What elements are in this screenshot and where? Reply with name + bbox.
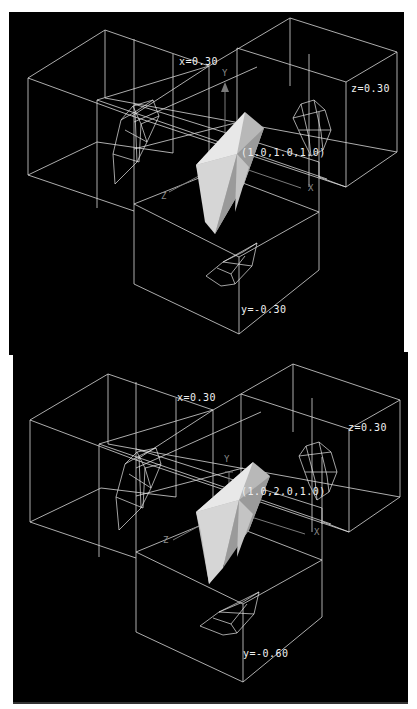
slice-label-z: z=0.30	[351, 84, 390, 94]
slice-box-x	[28, 30, 327, 211]
axis-label-x: X	[314, 528, 319, 537]
mesh-projection-y	[200, 592, 259, 635]
solid-polytope	[196, 462, 270, 584]
slice-label-y: y=-0.30	[241, 305, 287, 315]
point-coordinate-label: (1.0,2.0,1.0)	[241, 487, 326, 497]
axis-label-x: X	[308, 184, 313, 193]
mesh-projection-x	[113, 100, 159, 184]
slice-label-x: x=0.30	[177, 393, 216, 403]
mesh-projection-x	[116, 448, 161, 530]
wireframe-scene	[13, 352, 408, 702]
axis-label-z: Z	[163, 536, 168, 545]
mesh-projection-y	[206, 243, 257, 286]
point-coordinate-label: (1.0,1.0,1.0)	[241, 148, 326, 158]
axis-label-z: Z	[161, 192, 166, 201]
visualization-panel-bottom: x=0.30 z=0.30 y=-0.60 (1.0,2.0,1.0) Y X …	[13, 352, 408, 704]
slice-label-x: x=0.30	[179, 57, 218, 67]
slice-label-y: y=-0.60	[243, 649, 289, 659]
visualization-panel-top: x=0.30 z=0.30 y=-0.30 (1.0,1.0,1.0) Y X …	[9, 12, 404, 355]
axis-label-y: Y	[224, 455, 229, 464]
slice-label-z: z=0.30	[348, 423, 387, 433]
axis-label-y: Y	[222, 69, 227, 78]
